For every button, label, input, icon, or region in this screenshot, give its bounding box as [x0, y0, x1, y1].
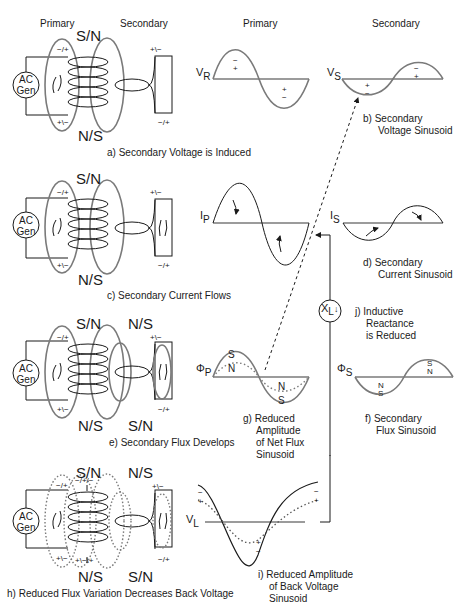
- transformer-panel-a: [13, 38, 172, 132]
- secondary-load: [155, 56, 172, 113]
- symbol-is: IS: [330, 210, 340, 221]
- sign: +: [233, 63, 238, 74]
- secondary-load: [155, 342, 172, 399]
- caption-c: c) Secondary Current Flows: [107, 290, 231, 302]
- pole-label: S/N: [76, 171, 101, 186]
- pole-mark: N: [427, 366, 433, 377]
- transformer-panel-e: [13, 325, 172, 419]
- pole-mark: S: [378, 388, 383, 399]
- polarity-label: −/+: [57, 332, 69, 343]
- diagram-canvas: [0, 0, 465, 606]
- header-left-secondary: Secondary: [120, 18, 168, 29]
- sign: −: [256, 546, 261, 557]
- secondary-voltage-sinusoid: [342, 62, 443, 94]
- polarity-label: −/+: [158, 117, 170, 128]
- dashed-link-arrow: [265, 98, 358, 370]
- caption-a: a) Secondary Voltage is Induced: [107, 147, 251, 159]
- primary-coil-icon: [68, 492, 108, 542]
- polarity-label: +\−: [150, 44, 162, 55]
- symbol-vl: VL: [186, 514, 199, 525]
- secondary-flux-sinusoid: [355, 360, 453, 395]
- primary-coil-icon: [68, 344, 108, 394]
- pole-label: S/N: [128, 569, 153, 584]
- secondary-load: [155, 199, 172, 256]
- reactance-feedback-path: [316, 235, 330, 522]
- polarity-label: −/+: [56, 480, 68, 491]
- generator-label: ACGen: [16, 74, 36, 96]
- primary-coil-icon: [68, 199, 108, 249]
- generator-label: ACGen: [16, 363, 36, 385]
- polarity-label: +\−: [152, 481, 164, 492]
- reactance-symbol: XL↓: [321, 303, 338, 315]
- pole-label: N/S: [78, 569, 103, 584]
- transformer-panel-c: [13, 180, 172, 274]
- pole-label: S/N: [76, 28, 101, 43]
- pole-mark: N: [278, 381, 285, 392]
- sign: +: [414, 71, 419, 82]
- sign: −: [282, 92, 287, 103]
- symbol-vs: VS: [327, 67, 341, 78]
- caption-i: i) Reduced Amplitudeof Back VoltageSinus…: [258, 569, 353, 605]
- caption-g: g) ReducedAmplitudeof Net FluxSinusoid: [243, 413, 304, 461]
- caption-h: h) Reduced Flux Variation Decreases Back…: [7, 588, 234, 600]
- primary-current-sinusoid: [213, 183, 309, 265]
- caption-e: e) Secondary Flux Develops: [109, 437, 235, 449]
- polarity-label: +\−: [57, 404, 69, 415]
- sign: +: [198, 496, 203, 507]
- polarity-label: +\−: [150, 332, 162, 343]
- pole-mark: S: [228, 349, 235, 360]
- pole-label: S/N: [128, 418, 153, 433]
- polarity-label: +\−: [150, 187, 162, 198]
- pole-label: N/S: [128, 465, 153, 480]
- pole-label: N/S: [78, 128, 103, 143]
- polarity-label: +\−: [57, 260, 69, 271]
- polarity-label: −/+/−: [75, 475, 93, 486]
- pole-label: N/S: [128, 316, 153, 331]
- polarity-label: −/+: [158, 260, 170, 271]
- pole-label: S/N: [76, 316, 101, 331]
- symbol-ip: IP: [200, 210, 210, 221]
- caption-d: d) SecondaryCurrent Sinusoid: [363, 257, 452, 281]
- secondary-current-sinusoid: [343, 206, 443, 241]
- caption-f: f) SecondaryFlux Sinusoid: [365, 413, 436, 437]
- secondary-load: [155, 490, 172, 547]
- symbol-phi-p: ΦP: [196, 363, 211, 374]
- header-right-secondary: Secondary: [372, 18, 420, 29]
- primary-coil-icon: [68, 57, 108, 107]
- polarity-label: −/+: [57, 187, 69, 198]
- polarity-label: −/+: [158, 554, 170, 565]
- polarity-label: +\−: [57, 117, 69, 128]
- caption-b: b) SecondaryVoltage Sinusoid: [363, 113, 453, 137]
- polarity-label: +\−: [56, 553, 68, 564]
- pole-mark: S: [278, 395, 285, 406]
- pole-label: N/S: [78, 272, 103, 287]
- polarity-label: −/+: [158, 404, 170, 415]
- pole-label: N/S: [78, 418, 103, 433]
- secondary-coupling-loop: [115, 79, 149, 91]
- symbol-phi-s: ΦS: [337, 363, 352, 374]
- pole-mark: N: [228, 363, 235, 374]
- header-left-primary: Primary: [40, 18, 74, 29]
- sign: −: [365, 88, 370, 99]
- sign: +: [314, 495, 319, 506]
- generator-label: ACGen: [16, 511, 36, 533]
- polarity-label: +\−\+: [75, 555, 93, 566]
- core-flux-loop: [90, 38, 124, 132]
- symbol-vr: VR: [196, 67, 211, 78]
- polarity-label: −/+: [57, 44, 69, 55]
- primary-voltage-sinusoid: [213, 50, 309, 109]
- transformer-panel-h: [13, 474, 172, 568]
- caption-j: j) InductiveReactanceis Reduced: [355, 306, 416, 342]
- header-right-primary: Primary: [243, 18, 277, 29]
- generator-label: ACGen: [16, 215, 36, 237]
